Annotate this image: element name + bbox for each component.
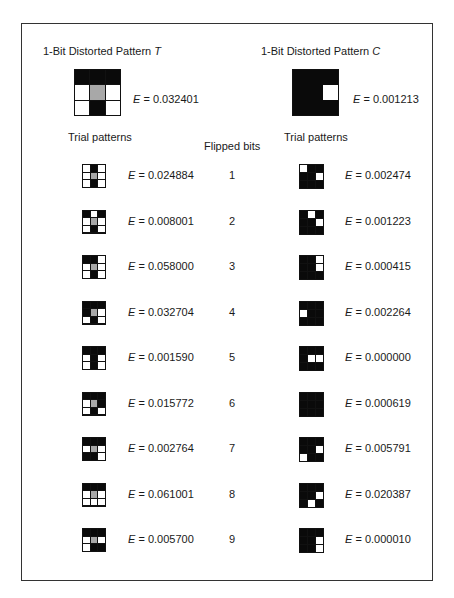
black-cell xyxy=(316,347,323,354)
black-cell xyxy=(308,409,315,416)
black-cell xyxy=(316,181,323,188)
flipped-bits-count: 8 xyxy=(222,488,242,500)
black-cell xyxy=(98,347,105,354)
energy-value: = 0.024884 xyxy=(138,169,193,181)
white-cell xyxy=(300,454,307,461)
flipped-bits-header: Flipped bits xyxy=(204,140,260,152)
black-cell xyxy=(316,409,323,416)
black-cell xyxy=(316,438,323,445)
white-cell xyxy=(91,499,98,506)
black-cell xyxy=(308,347,315,354)
black-cell xyxy=(308,318,315,325)
white-cell xyxy=(316,545,323,552)
flipped-bits-count: 3 xyxy=(222,260,242,272)
energy-value: = 0.002474 xyxy=(355,169,410,181)
title-letter: T xyxy=(154,45,161,57)
black-cell xyxy=(308,446,315,453)
black-cell xyxy=(91,438,98,445)
energy-symbol: E xyxy=(345,442,352,454)
black-cell xyxy=(300,302,307,309)
white-cell xyxy=(98,446,105,453)
black-cell xyxy=(308,165,315,172)
black-cell xyxy=(308,492,315,499)
grey-cell xyxy=(91,446,98,453)
white-cell xyxy=(98,256,105,263)
trial-pattern-t xyxy=(82,346,106,370)
black-cell xyxy=(91,408,98,415)
black-cell xyxy=(308,70,323,85)
black-cell xyxy=(300,347,307,354)
energy-symbol: E xyxy=(345,488,352,500)
trial-pattern-c xyxy=(299,392,324,417)
black-cell xyxy=(293,70,308,85)
black-cell xyxy=(300,363,307,370)
flipped-bits-count: 5 xyxy=(222,351,242,363)
black-cell xyxy=(308,484,315,491)
energy-symbol: E xyxy=(128,260,135,272)
white-cell xyxy=(83,173,90,180)
black-cell xyxy=(316,211,323,218)
energy-trial-t: E = 0.015772 xyxy=(128,397,194,409)
distorted-pattern-t xyxy=(74,69,121,116)
black-cell xyxy=(90,70,104,84)
white-cell xyxy=(106,85,120,99)
black-cell xyxy=(300,211,307,218)
grey-cell xyxy=(91,264,98,271)
energy-symbol: E xyxy=(345,351,352,363)
white-cell xyxy=(83,355,90,362)
title-pattern-c: 1-Bit Distorted Pattern C xyxy=(261,45,380,57)
energy-symbol: E xyxy=(345,397,352,409)
black-cell xyxy=(91,302,98,309)
trial-pattern-c xyxy=(299,255,324,280)
black-cell xyxy=(308,219,315,226)
white-cell xyxy=(98,309,105,316)
energy-trial-t: E = 0.001590 xyxy=(128,351,194,363)
grey-cell xyxy=(91,491,98,498)
energy-value: = 0.001590 xyxy=(138,351,193,363)
black-cell xyxy=(83,347,90,354)
energy-symbol: E xyxy=(133,93,140,105)
white-cell xyxy=(83,400,90,407)
white-cell xyxy=(316,264,323,271)
energy-value: = 0.002764 xyxy=(138,442,193,454)
title-letter: C xyxy=(372,45,380,57)
energy-trial-c: E = 0.020387 xyxy=(345,488,411,500)
energy-value: = 0.001223 xyxy=(355,215,410,227)
black-cell xyxy=(308,310,315,317)
trial-pattern-t xyxy=(82,301,106,325)
trial-pattern-t xyxy=(82,528,106,552)
black-cell xyxy=(300,438,307,445)
white-cell xyxy=(83,362,90,369)
energy-symbol: E xyxy=(128,397,135,409)
white-cell xyxy=(83,408,90,415)
energy-symbol: E xyxy=(128,351,135,363)
energy-value: = 0.002264 xyxy=(355,306,410,318)
energy-trial-t: E = 0.024884 xyxy=(128,169,194,181)
black-cell xyxy=(300,256,307,263)
white-cell xyxy=(83,180,90,187)
white-cell xyxy=(316,219,323,226)
energy-trial-c: E = 0.000619 xyxy=(345,397,411,409)
white-cell xyxy=(83,317,90,324)
grey-cell xyxy=(91,400,98,407)
black-cell xyxy=(300,500,307,507)
black-cell xyxy=(308,438,315,445)
black-cell xyxy=(316,363,323,370)
white-cell xyxy=(300,165,307,172)
energy-symbol: E xyxy=(345,533,352,545)
energy-trial-t: E = 0.008001 xyxy=(128,215,194,227)
black-cell xyxy=(300,227,307,234)
energy-symbol: E xyxy=(128,488,135,500)
black-cell xyxy=(91,271,98,278)
black-cell xyxy=(83,211,90,218)
black-cell xyxy=(308,537,315,544)
black-cell xyxy=(316,302,323,309)
white-cell xyxy=(98,226,105,233)
white-cell xyxy=(98,453,105,460)
black-cell xyxy=(91,347,98,354)
black-cell xyxy=(83,438,90,445)
title-pattern-t: 1-Bit Distorted Pattern T xyxy=(43,45,161,57)
black-cell xyxy=(308,100,323,115)
energy-trial-t: E = 0.058000 xyxy=(128,260,194,272)
energy-value: = 0.008001 xyxy=(138,215,193,227)
